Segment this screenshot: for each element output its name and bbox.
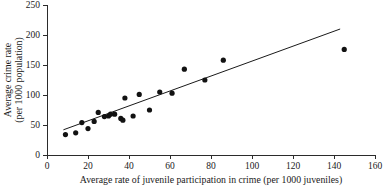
data-point xyxy=(147,107,152,112)
x-tick-label: 160 xyxy=(368,161,383,171)
data-point xyxy=(79,120,84,125)
x-axis: 020406080100120140160 xyxy=(45,155,383,171)
y-axis-title-line2: (per 1000 population) xyxy=(13,37,25,122)
data-point xyxy=(342,47,347,52)
x-tick-label: 140 xyxy=(327,161,342,171)
chart-canvas: 050100150200250 020406080100120140160 Av… xyxy=(0,0,386,191)
data-point xyxy=(112,112,117,117)
x-tick-label: 20 xyxy=(83,161,93,171)
y-tick-label: 150 xyxy=(26,60,41,70)
x-tick-label: 80 xyxy=(206,161,216,171)
data-points-layer xyxy=(63,47,347,137)
y-tick-label: 50 xyxy=(31,120,41,130)
data-point xyxy=(122,95,127,100)
y-tick-label: 100 xyxy=(26,90,41,100)
data-point xyxy=(96,110,101,115)
x-tick-label: 120 xyxy=(286,161,301,171)
data-point xyxy=(202,77,207,82)
x-axis-title: Average rate of juvenile participation i… xyxy=(80,174,342,186)
data-point xyxy=(92,119,97,124)
data-point xyxy=(137,92,142,97)
data-point xyxy=(85,126,90,131)
y-tick-label: 0 xyxy=(35,150,40,160)
data-point xyxy=(169,91,174,96)
y-tick-label: 250 xyxy=(26,0,41,10)
data-point xyxy=(73,130,78,135)
data-point xyxy=(131,113,136,118)
data-point xyxy=(182,67,187,72)
y-tick-label: 200 xyxy=(26,30,41,40)
y-axis: 050100150200250 xyxy=(26,0,47,160)
data-point xyxy=(157,89,162,94)
data-point xyxy=(63,132,68,137)
x-tick-label: 100 xyxy=(245,161,260,171)
data-point xyxy=(221,58,226,63)
x-tick-label: 60 xyxy=(165,161,175,171)
data-point xyxy=(120,118,125,123)
x-tick-label: 0 xyxy=(45,161,50,171)
y-axis-title-line1: Average crime rate xyxy=(2,42,13,117)
scatter-plot-figure: 050100150200250 020406080100120140160 Av… xyxy=(0,0,386,191)
x-tick-label: 40 xyxy=(124,161,134,171)
